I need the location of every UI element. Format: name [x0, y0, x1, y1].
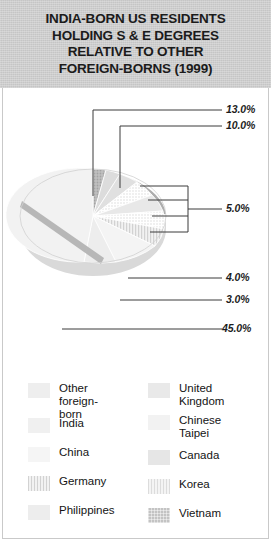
callout-label-4: 4.0% — [226, 271, 250, 283]
legend-label-other-foreign-born: Other foreign-born — [59, 382, 98, 421]
legend-swatch-philippines — [28, 505, 50, 520]
callout-label-45: 45.0% — [222, 322, 251, 334]
legend-swatch-united-kingdom — [148, 383, 170, 398]
chart-legend: Other foreign-born India China Germany P… — [0, 378, 271, 538]
legend-label-india: India — [59, 417, 84, 430]
title-line-2: HOLDING S & E DEGREES — [46, 28, 226, 45]
legend-label-philippines: Philippines — [59, 504, 115, 517]
legend-item-germany[interactable]: Germany — [28, 475, 106, 491]
title-line-4: FOREIGN-BORNS (1999) — [46, 61, 226, 78]
callout-label-3: 3.0% — [226, 293, 250, 305]
legend-swatch-other-foreign-born — [28, 383, 50, 398]
legend-item-philippines[interactable]: Philippines — [28, 504, 115, 520]
chart-figure: INDIA-BORN US RESIDENTS HOLDING S & E DE… — [0, 0, 271, 541]
legend-item-other-foreign-born[interactable]: Other foreign-born — [28, 382, 98, 421]
chart-title-band: INDIA-BORN US RESIDENTS HOLDING S & E DE… — [0, 0, 271, 88]
title-line-3: RELATIVE TO OTHER — [46, 44, 226, 61]
legend-swatch-germany — [28, 476, 50, 491]
legend-label-china: China — [59, 446, 89, 459]
legend-swatch-india — [28, 418, 50, 433]
legend-item-korea[interactable]: Korea — [148, 478, 210, 494]
pie-chart-plot: 13.0% 10.0% 5.0% 4.0% 3.0% 45.0% — [0, 88, 271, 360]
legend-label-chinese-taipei: Chinese Taipei — [179, 414, 221, 440]
legend-label-germany: Germany — [59, 475, 106, 488]
chart-title: INDIA-BORN US RESIDENTS HOLDING S & E DE… — [40, 11, 232, 77]
legend-swatch-vietnam — [148, 508, 170, 523]
callout-label-10: 10.0% — [226, 119, 255, 131]
legend-swatch-chinese-taipei — [148, 415, 170, 430]
legend-item-united-kingdom[interactable]: United Kingdom — [148, 382, 224, 408]
title-line-1: INDIA-BORN US RESIDENTS — [46, 11, 226, 28]
legend-item-vietnam[interactable]: Vietnam — [148, 507, 221, 523]
legend-item-china[interactable]: China — [28, 446, 89, 462]
legend-label-korea: Korea — [179, 478, 210, 491]
legend-item-canada[interactable]: Canada — [148, 449, 219, 465]
legend-swatch-canada — [148, 450, 170, 465]
legend-label-united-kingdom: United Kingdom — [179, 382, 224, 408]
legend-item-chinese-taipei[interactable]: Chinese Taipei — [148, 414, 221, 440]
callout-label-5: 5.0% — [226, 202, 250, 214]
legend-swatch-china — [28, 447, 50, 462]
callout-label-13: 13.0% — [226, 103, 255, 115]
legend-label-vietnam: Vietnam — [179, 507, 221, 520]
legend-label-canada: Canada — [179, 449, 219, 462]
legend-item-india[interactable]: India — [28, 417, 84, 433]
legend-swatch-korea — [148, 479, 170, 494]
